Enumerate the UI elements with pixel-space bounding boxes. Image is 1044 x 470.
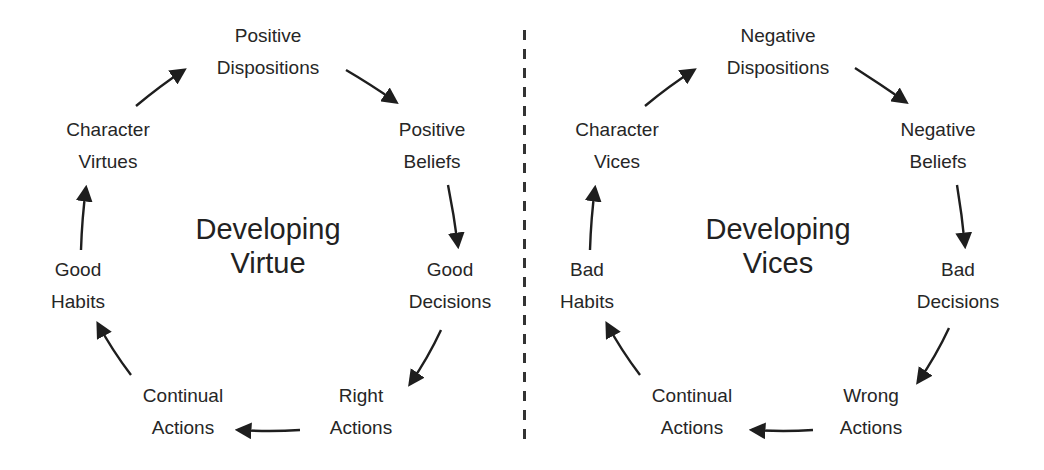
node-continual-actions-vices: Continual Actions: [652, 380, 732, 444]
node-character-virtues: Character Virtues: [66, 114, 149, 178]
arrow-icon: [136, 70, 184, 106]
arrow-icon: [238, 430, 300, 431]
arrow-icon: [590, 188, 595, 250]
dashed-divider: [523, 30, 526, 442]
node-character-vices: Character Vices: [575, 114, 658, 178]
arrow-icon: [410, 330, 441, 384]
node-bad-habits: Bad Habits: [560, 254, 614, 318]
arrow-icon: [752, 430, 813, 431]
title-developing-virtue: Developing Virtue: [195, 212, 340, 280]
arrow-icon: [81, 188, 86, 250]
node-wrong-actions: Wrong Actions: [840, 380, 902, 444]
arrow-icon: [448, 185, 458, 246]
arrow-icon: [918, 328, 949, 382]
node-bad-decisions: Bad Decisions: [917, 254, 999, 318]
arrow-icon: [346, 70, 396, 102]
arrow-icon: [645, 70, 694, 106]
node-positive-dispositions: Positive Dispositions: [217, 20, 319, 84]
title-developing-vices: Developing Vices: [705, 212, 850, 280]
arrow-icon: [957, 185, 965, 246]
node-negative-beliefs: Negative Beliefs: [901, 114, 976, 178]
node-positive-beliefs: Positive Beliefs: [399, 114, 466, 178]
node-right-actions: Right Actions: [330, 380, 392, 444]
node-continual-actions: Continual Actions: [143, 380, 223, 444]
node-negative-dispositions: Negative Dispositions: [727, 20, 829, 84]
arrow-icon: [98, 324, 131, 375]
arrow-icon: [607, 324, 640, 375]
node-good-decisions: Good Decisions: [409, 254, 491, 318]
node-good-habits: Good Habits: [51, 254, 105, 318]
arrow-icon: [855, 68, 906, 102]
